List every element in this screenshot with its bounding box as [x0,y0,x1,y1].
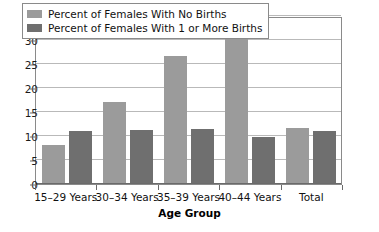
bar [191,129,214,184]
bar-group [97,18,158,184]
bar [286,128,309,184]
legend-item: Percent of Females With No Births [27,7,262,21]
bar [69,131,92,184]
bar-group [280,18,341,184]
plot-area [35,17,342,185]
y-tick-mark [30,161,35,162]
bar-chart: 05101520253035 15–29 Years30–34 Years35–… [0,0,379,232]
y-tick-mark [30,41,35,42]
x-tick-label: 15–29 Years [34,191,97,203]
bar-group [36,18,97,184]
legend-swatch-no-births [27,10,42,18]
bar [164,56,187,184]
x-tick-mark [158,185,159,190]
y-tick-mark [30,65,35,66]
bar [313,131,336,184]
bar [103,102,126,184]
legend: Percent of Females With No Births Percen… [22,3,269,39]
x-tick-mark [342,185,343,190]
legend-swatch-one-or-more-births [27,24,42,32]
legend-label-one-or-more-births: Percent of Females With 1 or More Births [48,22,262,34]
x-tick-mark [35,185,36,190]
x-tick-mark [219,185,220,190]
x-tick-mark [96,185,97,190]
bar [42,145,65,184]
bar [130,130,153,184]
x-tick-label: 35–39 Years [157,191,220,203]
bar-groups [36,18,341,184]
legend-label-no-births: Percent of Females With No Births [48,8,227,20]
legend-item: Percent of Females With 1 or More Births [27,21,262,35]
y-tick-mark [30,137,35,138]
x-tick-label: Total [299,191,324,203]
x-axis-title: Age Group [0,207,379,219]
x-tick-label: 40–44 Years [218,191,281,203]
bar-group [158,18,219,184]
bar [225,37,248,184]
x-tick-mark [281,185,282,190]
bar-group [219,18,280,184]
y-tick-mark [30,89,35,90]
bar [252,137,275,184]
x-tick-label: 30–34 Years [96,191,159,203]
x-axis-baseline [36,183,341,184]
y-tick-mark [30,113,35,114]
